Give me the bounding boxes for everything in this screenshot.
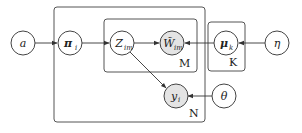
node-w-tilde: W̃ im <box>160 31 184 55</box>
node-y: y i <box>164 84 188 108</box>
node-eta: η <box>265 31 289 55</box>
plate-n-label: N <box>189 107 199 120</box>
svg-text:i: i <box>178 96 180 104</box>
svg-text:μ: μ <box>220 37 228 50</box>
node-pi: π i <box>58 31 82 55</box>
svg-text:k: k <box>229 44 233 52</box>
node-theta: θ <box>212 84 236 108</box>
svg-text:a: a <box>20 37 27 50</box>
svg-text:i: i <box>75 44 77 52</box>
svg-text:θ: θ <box>221 90 228 103</box>
svg-text:im: im <box>174 44 183 52</box>
svg-text:y: y <box>170 90 178 103</box>
node-z: Z im <box>110 31 134 55</box>
graphical-model-diagram: N M K a π i Z im W̃ im μ k η y <box>0 0 302 133</box>
plate-k-label: K <box>229 56 238 69</box>
node-mu: μ k <box>214 31 238 55</box>
plate-m-label: M <box>179 57 190 70</box>
edge-z-y <box>130 52 166 88</box>
node-a: a <box>11 31 35 55</box>
svg-text:π: π <box>63 37 73 50</box>
svg-text:Z: Z <box>114 37 123 50</box>
svg-text:η: η <box>274 37 281 50</box>
svg-text:im: im <box>124 44 133 52</box>
